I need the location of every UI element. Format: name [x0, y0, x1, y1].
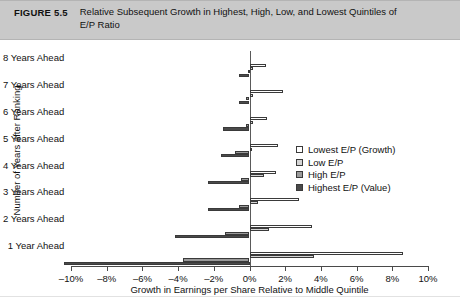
x-axis-tick-label: 6% [350, 273, 364, 284]
bar [250, 121, 254, 124]
x-axis-tick-label: 2% [278, 273, 292, 284]
category-row: 8 Years Ahead [71, 51, 428, 78]
x-axis-tick [428, 266, 429, 271]
bar [250, 94, 254, 97]
x-axis-tick-label: –6% [133, 273, 152, 284]
bar [250, 228, 270, 231]
bar [208, 181, 249, 184]
bar [239, 101, 250, 104]
category-label: 6 Years Ahead [3, 106, 69, 117]
figure-caption-bar: FIGURE 5.5 Relative Subsequent Growth in… [0, 0, 460, 40]
category-label: 3 Years Ahead [3, 186, 69, 197]
bar [250, 148, 252, 151]
x-axis: –10%–8%–6%–4%–2%0%2%4%6%8%10% [71, 266, 428, 267]
bar [208, 208, 249, 211]
bar-group [71, 198, 428, 212]
x-axis-tick [71, 266, 72, 271]
x-axis-tick [321, 266, 322, 271]
x-axis-tick [392, 266, 393, 271]
category-row: 1 Year Ahead [71, 239, 428, 266]
category-label: 4 Years Ahead [3, 160, 69, 171]
x-axis-tick [357, 266, 358, 271]
legend-swatch-icon [296, 171, 303, 178]
legend-swatch-icon [296, 184, 303, 191]
x-axis-tick [178, 266, 179, 271]
x-axis-title: Growth in Earnings per Share Relative to… [71, 284, 428, 295]
x-axis-tick-label: –8% [97, 273, 116, 284]
x-axis-tick [285, 266, 286, 271]
legend-item[interactable]: Lowest E/P (Growth) [296, 143, 395, 156]
legend-label: Lowest E/P (Growth) [308, 144, 395, 155]
bar [250, 67, 254, 70]
figure-title: Relative Subsequent Growth in Highest, H… [80, 6, 410, 31]
x-axis-tick [107, 266, 108, 271]
bar [239, 74, 250, 77]
x-axis-tick-label: 0% [243, 273, 257, 284]
legend-item[interactable]: Highest E/P (Value) [296, 181, 395, 194]
category-label: 1 Year Ahead [8, 240, 70, 251]
legend-label: Highest E/P (Value) [308, 182, 391, 193]
bar [64, 262, 250, 265]
category-row: 2 Years Ahead [71, 212, 428, 239]
figure-caption: FIGURE 5.5 Relative Subsequent Growth in… [14, 6, 450, 31]
category-label: 7 Years Ahead [3, 79, 69, 90]
bar [250, 255, 314, 258]
x-axis-tick [250, 266, 251, 271]
x-axis-tick-label: –4% [169, 273, 188, 284]
chart-legend: Lowest E/P (Growth)Low E/PHigh E/PHighes… [296, 143, 395, 194]
category-label: 8 Years Ahead [3, 52, 69, 63]
x-axis-tick [142, 266, 143, 271]
legend-swatch-icon [296, 146, 303, 153]
category-row: 6 Years Ahead [71, 105, 428, 132]
bar-group [71, 90, 428, 104]
bar-group [71, 117, 428, 131]
bar [221, 154, 250, 157]
x-axis-tick-label: 4% [314, 273, 328, 284]
legend-label: High E/P [308, 169, 346, 180]
bar [223, 127, 250, 130]
bar [175, 235, 250, 238]
x-axis-tick-label: 8% [385, 273, 399, 284]
x-axis-tick [214, 266, 215, 271]
bar-group [71, 64, 428, 78]
chart-container: Number of Years after Ranking 8 Years Ah… [0, 40, 460, 297]
bar [250, 144, 279, 147]
bar-group [71, 252, 428, 266]
category-label: 2 Years Ahead [3, 213, 69, 224]
figure-number: FIGURE 5.5 [14, 6, 68, 18]
legend-item[interactable]: Low E/P [296, 156, 395, 169]
x-axis-tick-label: –10% [59, 273, 83, 284]
bar-group [71, 225, 428, 239]
legend-item[interactable]: High E/P [296, 169, 395, 182]
bar [250, 90, 284, 93]
x-axis-tick-label: –2% [204, 273, 223, 284]
category-row: 7 Years Ahead [71, 78, 428, 105]
category-label: 5 Years Ahead [3, 133, 69, 144]
bar [250, 201, 259, 204]
x-axis-tick-label: 10% [418, 273, 437, 284]
legend-label: Low E/P [308, 157, 343, 168]
bar [250, 174, 264, 177]
legend-swatch-icon [296, 159, 303, 166]
